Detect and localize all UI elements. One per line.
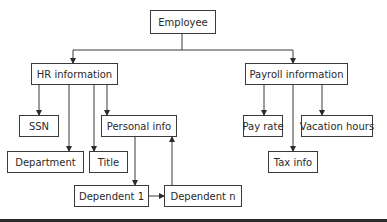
node-personal-info: Personal info [101, 115, 177, 137]
node-department: Department [7, 151, 84, 173]
node-label: Personal info [107, 121, 171, 132]
diagram-canvas: Employee HR information Payroll informat… [0, 0, 387, 222]
node-label: Title [98, 157, 119, 168]
node-hr-information: HR information [31, 63, 118, 85]
node-label: Vacation hours [300, 121, 374, 132]
node-payroll-information: Payroll information [245, 63, 348, 85]
node-title: Title [89, 151, 128, 173]
node-label: Tax info [274, 157, 312, 168]
node-label: Pay rate [242, 121, 283, 132]
node-vacation-hours: Vacation hours [301, 115, 373, 137]
node-label: SSN [29, 121, 49, 132]
node-label: Employee [158, 17, 208, 28]
node-dependent-1: Dependent 1 [74, 185, 149, 207]
node-dependent-n: Dependent n [164, 185, 242, 207]
node-label: Department [15, 157, 76, 168]
node-employee: Employee [150, 10, 216, 34]
bottom-divider [0, 219, 387, 222]
node-label: Dependent n [171, 191, 236, 202]
node-label: Payroll information [249, 69, 343, 80]
node-label: HR information [37, 69, 112, 80]
node-ssn: SSN [19, 115, 59, 137]
node-pay-rate: Pay rate [243, 115, 283, 137]
node-label: Dependent 1 [79, 191, 144, 202]
node-tax-info: Tax info [268, 151, 318, 173]
